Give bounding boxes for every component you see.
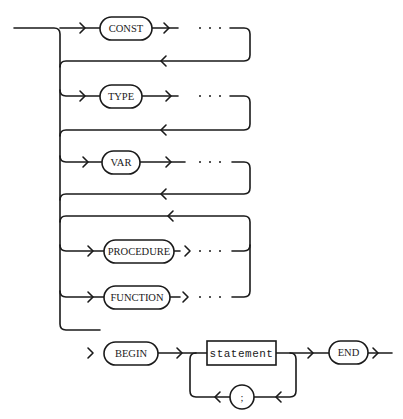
terminal-function: FUNCTION (104, 286, 170, 309)
ellipsis-markers (199, 27, 221, 298)
terminal-label: FUNCTION (110, 292, 164, 303)
terminal-end: END (329, 341, 368, 364)
nonterminal-label: statement (210, 348, 274, 360)
terminal-type: TYPE (100, 85, 142, 108)
terminal-const: CONST (100, 17, 152, 40)
terminal-label: PROCEDURE (108, 246, 170, 257)
nonterminal-statement: statement (207, 341, 276, 365)
terminal-label: BEGIN (115, 348, 147, 359)
terminal-var: VAR (102, 151, 140, 174)
terminal-label: VAR (111, 157, 132, 168)
terminal-procedure: PROCEDURE (104, 240, 174, 263)
terminal-begin: BEGIN (104, 342, 158, 365)
terminal-label: CONST (109, 23, 144, 34)
terminal-label: ; (241, 392, 244, 403)
syntax-diagram: CONST TYPE VAR PROCEDURE FUNCTION BEGIN … (0, 0, 403, 419)
terminal-label: END (338, 347, 360, 358)
terminal-semicolon: ; (230, 385, 254, 409)
terminal-label: TYPE (108, 91, 134, 102)
